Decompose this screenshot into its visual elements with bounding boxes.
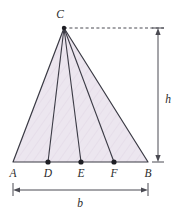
- point-label-f: F: [109, 167, 118, 179]
- point-label-d: D: [43, 167, 53, 179]
- base-point-f: [111, 159, 116, 164]
- height-arrowhead-bottom: [155, 155, 160, 162]
- height-dimension-label: h: [165, 93, 171, 105]
- vertex-label-a: A: [8, 167, 17, 179]
- point-label-e: E: [76, 167, 84, 179]
- vertex-label-b: B: [144, 167, 151, 179]
- base-point-e: [78, 159, 83, 164]
- vertex-label-c: C: [56, 8, 64, 20]
- base-arrowhead-left: [13, 187, 20, 192]
- height-arrowhead-top: [155, 28, 160, 35]
- apex-point-c: [62, 26, 66, 30]
- geometry-figure: C A D E F B h b: [0, 0, 177, 211]
- base-arrowhead-right: [141, 187, 148, 192]
- base-point-d: [45, 159, 50, 164]
- triangle-texture: [13, 28, 148, 162]
- base-dimension-label: b: [77, 197, 83, 209]
- figure-canvas: C A D E F B h b: [0, 0, 177, 211]
